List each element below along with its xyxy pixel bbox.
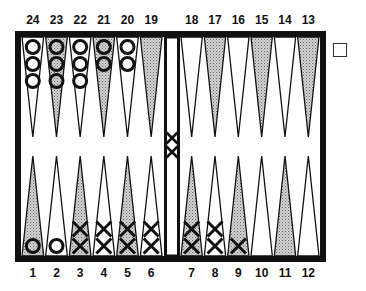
point-label-12: 12	[296, 266, 320, 280]
point-label-14: 14	[273, 13, 297, 27]
point-label-24: 24	[21, 13, 45, 27]
point-label-23: 23	[45, 13, 69, 27]
point-label-20: 20	[116, 13, 140, 27]
point-label-15: 15	[250, 13, 274, 27]
point-label-1: 1	[21, 266, 45, 280]
point-label-22: 22	[68, 13, 92, 27]
point-label-6: 6	[139, 266, 163, 280]
point-label-7: 7	[180, 266, 204, 280]
point-label-10: 10	[250, 266, 274, 280]
board-drawing	[0, 0, 366, 291]
point-label-4: 4	[92, 266, 116, 280]
point-label-18: 18	[180, 13, 204, 27]
point-label-3: 3	[68, 266, 92, 280]
point-label-5: 5	[116, 266, 140, 280]
doubling-cube[interactable]	[333, 43, 347, 57]
point-label-19: 19	[139, 13, 163, 27]
point-label-9: 9	[226, 266, 250, 280]
point-label-21: 21	[92, 13, 116, 27]
point-label-16: 16	[226, 13, 250, 27]
point-label-11: 11	[273, 266, 297, 280]
point-label-13: 13	[296, 13, 320, 27]
point-label-8: 8	[203, 266, 227, 280]
backgammon-board: 242322212019181716151413123456789101112	[0, 0, 366, 291]
point-label-2: 2	[45, 266, 69, 280]
point-label-17: 17	[203, 13, 227, 27]
